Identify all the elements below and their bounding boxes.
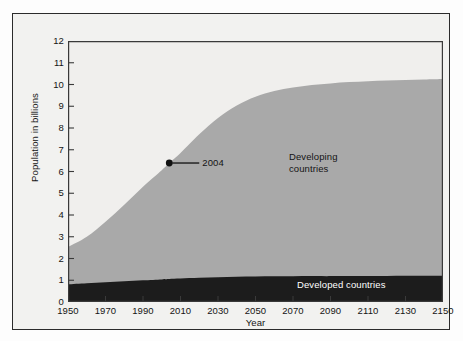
series-label-developing-line2: countries <box>289 163 328 174</box>
x-tick-label: 1950 <box>48 305 88 317</box>
y-tick-label: 3 <box>34 232 64 242</box>
y-tick-label: 7 <box>34 145 64 155</box>
series-label-developing-countries: Developingcountries <box>289 151 338 174</box>
series-label-developing-line1: Developing <box>289 151 338 162</box>
x-tick-label: 2030 <box>198 305 238 317</box>
x-tick-label: 2010 <box>161 305 201 317</box>
series-label-developed-countries: Developed countries <box>297 279 386 290</box>
x-tick-label: 2130 <box>386 305 426 317</box>
x-tick-label: 2070 <box>273 305 313 317</box>
x-tick-label: 2050 <box>236 305 276 317</box>
x-tick-label: 2110 <box>348 305 388 317</box>
annotation-2004-label: 2004 <box>202 158 224 168</box>
y-tick-label: 8 <box>34 123 64 133</box>
y-tick-label: 9 <box>34 101 64 111</box>
y-tick-label: 6 <box>34 167 64 177</box>
y-tick-label: 1 <box>34 275 64 285</box>
x-tick-label: 2150 <box>423 305 463 317</box>
x-tick-label: 1970 <box>86 305 126 317</box>
x-axis-title: Year <box>68 317 443 328</box>
plot-area: Developingcountries Developed countries … <box>68 41 443 302</box>
y-tick-label: 10 <box>34 80 64 90</box>
x-tick-label: 1990 <box>123 305 163 317</box>
y-tick-label: 2 <box>34 254 64 264</box>
x-tick-label: 2090 <box>311 305 351 317</box>
y-tick-label: 4 <box>34 210 64 220</box>
figure-frame: Population in billions 12 11 10 9 8 7 6 … <box>12 13 450 330</box>
chart-canvas <box>68 41 443 302</box>
y-tick-label: 12 <box>34 36 64 46</box>
chart-figure: Population in billions 12 11 10 9 8 7 6 … <box>0 0 463 341</box>
y-axis-tick-labels: 12 11 10 9 8 7 6 5 4 3 2 1 0 <box>31 41 64 302</box>
y-tick-label: 5 <box>34 188 64 198</box>
y-tick-label: 11 <box>34 58 64 68</box>
